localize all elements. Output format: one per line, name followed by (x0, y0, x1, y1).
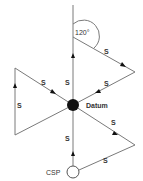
segment-label: S (103, 157, 108, 164)
segment-label: S (65, 135, 70, 142)
segment-label: S (41, 79, 46, 86)
datum-label: Datum (86, 102, 108, 109)
segment-left-upper (15, 68, 73, 105)
segment-label: S (104, 48, 109, 55)
segment-bottom-right-upper (73, 105, 135, 145)
arrow-top-right-outer (120, 62, 126, 67)
segment-left-lower (15, 105, 73, 135)
segment-label: S (104, 80, 109, 87)
segment-label: S (17, 102, 22, 109)
angle-label: 120° (75, 29, 90, 36)
arrow-up-upper (71, 53, 75, 58)
arrow-left-vertical (13, 83, 17, 88)
segment-top-right-inner (73, 72, 135, 105)
traverse-diagram: 120° S S S S S S S S Datum CSP (0, 0, 143, 181)
datum-point (67, 99, 79, 111)
csp-label: CSP (46, 169, 61, 176)
segment-label: S (65, 79, 70, 86)
csp-point (67, 166, 79, 178)
arrow-left-upper (50, 89, 56, 94)
segment-label: S (111, 119, 116, 126)
arrow-up-lower (71, 151, 75, 156)
